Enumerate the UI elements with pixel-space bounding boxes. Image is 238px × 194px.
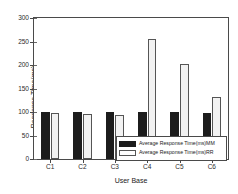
y-axis-tick-label: 100 [18,109,29,116]
y-axis-tick-label: 0 [25,156,29,163]
bar-group [34,18,66,159]
bar-rr [83,114,91,159]
legend-label-mm: Average Response Time(ms)MM [139,141,215,146]
x-axis-tick-label: C3 [111,164,119,171]
bar-mm [73,112,81,159]
bar-mm [41,112,49,159]
x-axis-tick-label: C6 [208,164,216,171]
legend-item-mm: Average Response Time(ms)MM [119,140,224,148]
chart-figure: Response Time(ms) 050100150200250300 C1C… [0,0,238,194]
legend-swatch-mm [119,141,136,147]
x-axis-tick-label: C1 [46,164,54,171]
x-axis-tick-label: C2 [78,164,86,171]
bar-rr [51,113,59,159]
bar-mm [106,112,114,159]
legend-label-rr: Average Response Time(ms)RR [139,150,214,155]
x-axis-tick-label: C5 [175,164,183,171]
y-axis-tick-inner [34,159,37,160]
y-axis-tick-label: 150 [18,85,29,92]
bar-group [66,18,98,159]
x-axis-label: User Base [33,177,229,184]
chart-legend: Average Response Time(ms)MM Average Resp… [116,136,227,161]
legend-swatch-rr [119,150,136,156]
legend-item-rr: Average Response Time(ms)RR [119,149,224,157]
y-axis-tick-label: 300 [18,15,29,22]
y-axis-tick-label: 50 [22,132,29,139]
y-axis-tick-label: 250 [18,38,29,45]
x-axis-tick-label: C4 [143,164,151,171]
y-axis-tick-label: 200 [18,62,29,69]
